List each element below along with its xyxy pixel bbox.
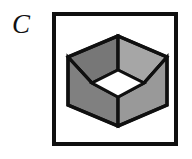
figure-panel: C [0,0,192,159]
figure-label: C [12,7,46,41]
cube-with-hole-drawing [52,12,178,146]
